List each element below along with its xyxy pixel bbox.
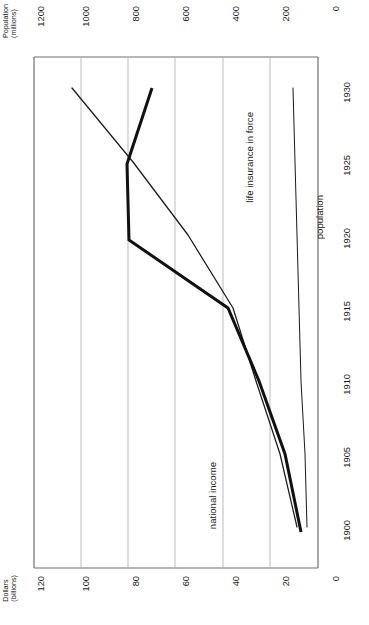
series-population: [293, 88, 307, 527]
series-label-population: population: [314, 195, 325, 239]
plot-area: [0, 0, 369, 625]
series-label-national-income: national income: [207, 462, 218, 529]
series-life-insurance: [72, 88, 297, 527]
series-label-life-insurance: life insurance in force: [244, 112, 255, 203]
axis-frame: [34, 57, 318, 568]
chart-figure: Population (millions) Dollars (billions)…: [0, 0, 369, 625]
